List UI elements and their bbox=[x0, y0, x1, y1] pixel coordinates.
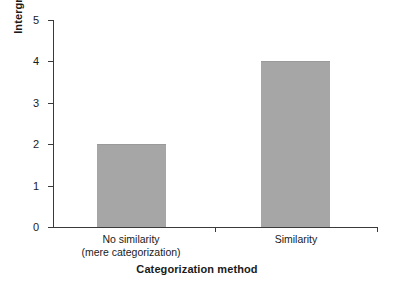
x-category-label-line2: (mere categorization) bbox=[81, 246, 180, 259]
bar-no-similarity bbox=[97, 144, 166, 227]
x-category-label-line1: No similarity bbox=[81, 233, 180, 246]
y-tick-label-5: 5 bbox=[33, 15, 39, 26]
x-tick-end bbox=[377, 227, 378, 232]
y-axis-title: Intergroup bias bbox=[8, 0, 28, 68]
y-tick-4: 4 bbox=[48, 61, 53, 62]
y-tick-3: 3 bbox=[48, 103, 53, 104]
y-tick-label-0: 0 bbox=[33, 222, 39, 233]
y-tick-label-1: 1 bbox=[33, 180, 39, 191]
x-category-label-no-similarity: No similarity (mere categorization) bbox=[81, 233, 180, 259]
y-tick-label-4: 4 bbox=[33, 56, 39, 67]
x-axis-title: Categorization method bbox=[0, 263, 394, 275]
plot-area: 0 1 2 3 4 5 No similarity (mere categori… bbox=[53, 20, 378, 227]
y-tick-2: 2 bbox=[48, 144, 53, 145]
x-tick-separator bbox=[215, 227, 216, 232]
bar-chart-figure: Intergroup bias 0 1 2 3 4 5 No sim bbox=[0, 0, 394, 287]
bar-similarity bbox=[261, 61, 330, 227]
y-tick-5: 5 bbox=[48, 20, 53, 21]
y-axis-line bbox=[53, 20, 54, 228]
y-tick-1: 1 bbox=[48, 186, 53, 187]
x-category-label-line1: Similarity bbox=[275, 233, 318, 246]
y-tick-0: 0 bbox=[48, 227, 53, 228]
y-tick-label-2: 2 bbox=[33, 139, 39, 150]
y-tick-label-3: 3 bbox=[33, 97, 39, 108]
x-category-label-similarity: Similarity bbox=[275, 233, 318, 246]
